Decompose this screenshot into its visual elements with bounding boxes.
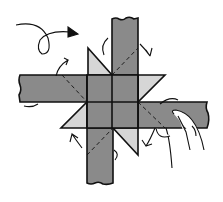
star-point-right-top	[138, 75, 165, 102]
star-point-bottom-right	[113, 128, 138, 155]
star-point-left-bottom	[61, 102, 87, 128]
right-horizontal-strip	[138, 102, 209, 128]
origami-diagram	[0, 0, 223, 202]
star-point-top-left	[88, 48, 112, 75]
turn-over-arrow	[16, 24, 78, 54]
top-vertical-strip	[112, 17, 138, 75]
left-horizontal-strip	[19, 75, 87, 102]
bottom-vertical-strip	[87, 128, 113, 184]
